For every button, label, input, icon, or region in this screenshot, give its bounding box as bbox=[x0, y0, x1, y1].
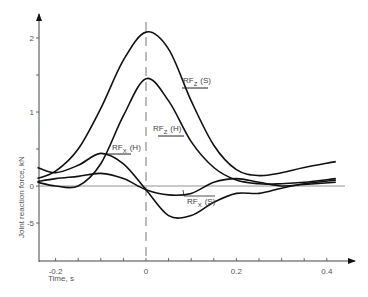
x-tick-label: 0 bbox=[144, 267, 149, 276]
x-axis-title: Time, s bbox=[48, 274, 74, 283]
y-ticks: 210-5 bbox=[27, 34, 39, 228]
label-rfz-h: RFZ(H) bbox=[153, 124, 182, 135]
y-tick-label: 2 bbox=[30, 34, 35, 43]
y-tick-label: -5 bbox=[27, 219, 35, 228]
y-tick-label: 0 bbox=[30, 182, 35, 191]
x-tick-label: 0.2 bbox=[231, 267, 243, 276]
series-line-rfz-s bbox=[38, 32, 336, 179]
label-rfx-s: RFX(S) bbox=[187, 197, 216, 208]
label-rfz-s: RFZ(S) bbox=[183, 76, 211, 87]
series-group bbox=[38, 32, 336, 218]
x-tick-label: 0.4 bbox=[321, 267, 333, 276]
label-rfx-h: RFX(H) bbox=[112, 143, 141, 154]
y-tick-label: 1 bbox=[30, 108, 35, 117]
leader-rfx-s bbox=[183, 190, 215, 196]
chart: -0.200.20.4 210-5 Time, s Joint reaction… bbox=[0, 0, 368, 297]
y-axis-title: Joint reaction force, kN bbox=[17, 156, 26, 238]
